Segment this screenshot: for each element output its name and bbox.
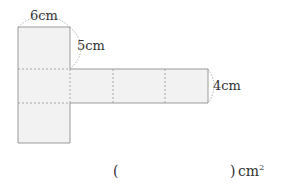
face-bottom: [18, 103, 70, 143]
face-top: [18, 27, 70, 69]
answer-open-paren: (: [113, 164, 118, 178]
unit-text: cm: [238, 163, 259, 179]
face-strip: [70, 69, 208, 103]
label-strip-height: 4cm: [213, 79, 241, 92]
answer-blank[interactable]: [124, 164, 228, 180]
answer-close-paren: ): [230, 164, 235, 178]
label-height: 5cm: [77, 39, 105, 52]
answer-unit: cm2: [238, 164, 264, 178]
label-top-width: 6cm: [30, 9, 58, 22]
unit-exponent: 2: [259, 163, 264, 172]
face-middle: [18, 69, 70, 103]
